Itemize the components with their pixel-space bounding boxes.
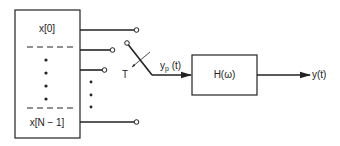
ellipsis-dot — [44, 84, 47, 87]
sampled-signal: yp (t) — [152, 60, 191, 75]
output-signal: y(t) — [257, 69, 326, 80]
register-bottom-label: x[N − 1] — [30, 117, 65, 128]
sampling-reconstruction-diagram: x[0] x[N − 1] T yp (t) — [0, 0, 340, 146]
ellipsis-dot — [44, 58, 47, 61]
signal-label: yp (t) — [160, 60, 181, 73]
rotation-arrow-icon — [132, 52, 150, 67]
switch-period-label: T — [122, 69, 128, 80]
register-block: x[0] x[N − 1] — [15, 10, 80, 138]
ellipsis-dot — [90, 81, 93, 84]
signal-label-suffix: (t) — [169, 60, 181, 71]
tap-terminal — [134, 120, 139, 125]
tap-terminal — [110, 48, 115, 53]
register-taps — [80, 28, 139, 125]
switch-pivot-terminal — [125, 41, 130, 46]
tap-terminal — [134, 28, 139, 33]
rotary-switch: T — [122, 41, 152, 80]
filter-label: H(ω) — [214, 69, 236, 80]
tap-terminal — [102, 68, 107, 73]
ellipsis-dot — [44, 97, 47, 100]
ellipsis-dot — [90, 94, 93, 97]
filter-block: H(ω) — [192, 55, 257, 95]
register-top-label: x[0] — [39, 23, 55, 34]
output-label: y(t) — [312, 69, 326, 80]
ellipsis-dot — [90, 106, 93, 109]
ellipsis-dot — [44, 71, 47, 74]
